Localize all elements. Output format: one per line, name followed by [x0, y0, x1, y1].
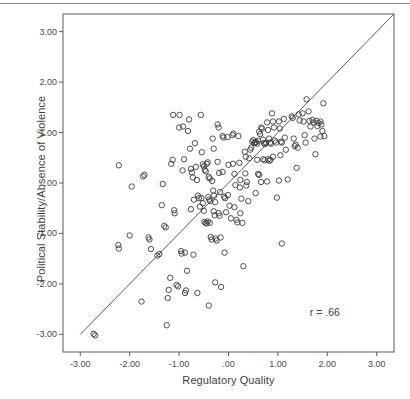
data-point	[148, 246, 153, 251]
data-point	[189, 170, 194, 175]
data-point	[241, 264, 246, 269]
data-point	[142, 172, 147, 177]
data-point	[228, 216, 233, 221]
data-point	[322, 133, 327, 138]
x-tick-label: 2.00	[319, 359, 337, 369]
data-point	[294, 165, 299, 170]
data-point	[269, 111, 274, 116]
data-point	[140, 174, 145, 179]
data-point	[222, 250, 227, 255]
data-point	[232, 171, 237, 176]
data-point	[238, 211, 243, 216]
data-point	[281, 116, 286, 121]
data-point	[236, 133, 241, 138]
data-point	[210, 188, 215, 193]
data-point	[92, 333, 97, 338]
data-point	[238, 177, 243, 182]
data-point	[270, 119, 275, 124]
data-point	[265, 127, 270, 132]
data-point	[258, 179, 263, 184]
data-point	[186, 117, 191, 122]
data-point	[198, 112, 203, 117]
data-point	[116, 163, 121, 168]
data-point	[192, 140, 197, 145]
data-point	[283, 147, 288, 152]
data-point	[147, 237, 152, 242]
data-point	[91, 331, 96, 336]
data-point	[160, 181, 165, 186]
data-point	[180, 168, 185, 173]
data-point	[223, 210, 228, 215]
data-point	[195, 290, 200, 295]
x-tick-label: .00	[222, 359, 235, 369]
data-point	[175, 284, 180, 289]
data-point	[321, 101, 326, 106]
data-point	[200, 200, 205, 205]
data-point	[194, 177, 199, 182]
data-point	[254, 157, 259, 162]
data-point	[127, 233, 132, 238]
data-point	[193, 164, 198, 169]
data-point	[191, 252, 196, 257]
y-tick-label: -3.00	[21, 329, 57, 339]
data-point	[302, 132, 307, 137]
data-point	[139, 299, 144, 304]
data-point	[282, 135, 287, 140]
data-point	[243, 154, 248, 159]
data-point	[185, 128, 190, 133]
x-tick-label: -1.00	[169, 359, 190, 369]
data-point	[285, 177, 290, 182]
data-point	[210, 136, 215, 141]
data-point	[177, 112, 182, 117]
data-point	[216, 125, 221, 130]
data-point	[276, 178, 281, 183]
data-point	[190, 175, 195, 180]
data-point	[212, 199, 217, 204]
data-point	[247, 156, 252, 161]
data-point	[271, 125, 276, 130]
data-point	[232, 205, 237, 210]
data-point	[212, 280, 217, 285]
data-point	[166, 287, 171, 292]
data-point	[220, 169, 225, 174]
y-tick-label: 3.00	[21, 27, 57, 37]
data-point	[242, 149, 247, 154]
data-point	[129, 184, 134, 189]
data-point	[304, 97, 309, 102]
data-point	[312, 136, 317, 141]
data-point	[279, 241, 284, 246]
data-point	[278, 153, 283, 158]
data-point	[203, 169, 208, 174]
data-point	[188, 207, 193, 212]
plot-canvas	[0, 0, 410, 399]
data-point	[237, 160, 242, 165]
data-point	[239, 196, 244, 201]
data-point	[116, 246, 121, 251]
data-point	[181, 157, 186, 162]
data-points	[91, 97, 327, 338]
y-axis-title: Political Stability/Absence of Violence	[35, 49, 47, 329]
scatter-plot-figure: -3.00-2.00-1.00.001.002.003.00-3.00-2.00…	[0, 0, 410, 399]
data-point	[273, 140, 278, 145]
data-point	[237, 185, 242, 190]
data-point	[211, 146, 216, 151]
data-point	[174, 282, 179, 287]
data-point	[164, 323, 169, 328]
x-tick-label: -3.00	[70, 359, 91, 369]
data-point	[165, 295, 170, 300]
data-point	[216, 170, 221, 175]
data-point	[264, 120, 269, 125]
data-point	[162, 223, 167, 228]
data-point	[218, 235, 223, 240]
data-point	[218, 284, 223, 289]
data-point	[199, 150, 204, 155]
x-axis-title: Regulatory Quality	[63, 374, 394, 386]
data-point	[246, 198, 251, 203]
data-point	[159, 202, 164, 207]
data-point	[206, 303, 211, 308]
correlation-annotation: r = .66	[310, 306, 340, 318]
data-point	[222, 195, 227, 200]
data-point	[243, 171, 248, 176]
data-point	[244, 183, 249, 188]
data-point	[163, 225, 168, 230]
